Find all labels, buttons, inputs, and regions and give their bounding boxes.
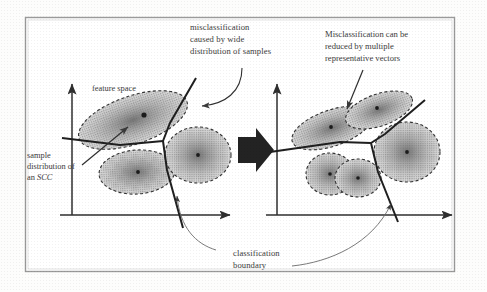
cluster-center-dot [405,150,409,154]
figure-root: feature space sample distribution of an … [0,0,487,292]
cluster-center-dot [196,153,200,157]
cluster-center-dot [356,176,360,180]
cluster-right [165,127,231,183]
sample-distribution-line3-prefix: an [27,173,37,182]
caption-left-line3: distribution of samples [190,46,272,56]
caption-left-line2: caused by wide [190,34,244,44]
caption-left-line1: misclassification [190,22,250,32]
cluster-right-after [374,122,440,182]
cluster-center-dot [141,112,146,117]
caption-right-line1: Misclassification can be [325,29,408,39]
sample-distribution-line1: sample [27,151,51,160]
sample-distribution-line2: distribution of [27,162,75,171]
diagram-canvas: feature space sample distribution of an … [0,0,487,292]
cluster-center-dot [328,172,332,176]
feature-space-label: feature space [92,84,136,93]
cluster-center-dot [329,125,333,129]
cluster-center-dot [375,106,379,110]
sample-distribution-line3: an SCC [27,173,53,182]
caption-bottom-line1: classification [233,248,280,258]
cluster-center-dot [136,170,140,174]
caption-right-line2: reduced by multiple [325,41,394,51]
cluster-split-d [335,159,381,197]
scc-acronym: SCC [37,173,53,182]
caption-bottom-line2: boundary [233,260,267,270]
caption-right-line3: representative vectors [325,53,401,63]
